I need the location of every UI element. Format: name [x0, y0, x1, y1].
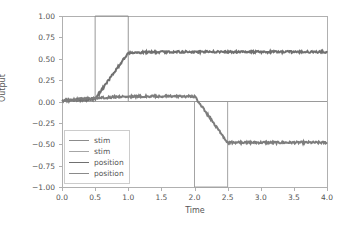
plot-axes: 0.00.51.01.52.02.53.03.54.0 1.000.750.50…	[62, 16, 328, 188]
y-tick-label: 0.75	[38, 33, 55, 42]
legend-label: position	[94, 169, 124, 178]
legend-box[interactable]: stimstimpositionposition	[64, 130, 130, 184]
x-tick-mark	[228, 188, 229, 191]
legend-item[interactable]: stim	[69, 146, 124, 157]
figure-canvas: Output Time 0.00.51.01.52.02.53.03.54.0 …	[0, 0, 347, 226]
y-tick-label: 0.50	[38, 54, 55, 63]
legend-label: stim	[94, 136, 110, 145]
legend-line-swatch	[69, 151, 89, 152]
legend-line-swatch	[69, 173, 89, 174]
legend-item[interactable]: position	[69, 157, 124, 168]
legend-label: position	[94, 158, 124, 167]
legend-item[interactable]: position	[69, 168, 124, 179]
x-tick-label: 2.5	[222, 193, 234, 202]
x-tick-mark	[161, 188, 162, 191]
series-line-position-2	[62, 51, 327, 102]
x-tick-mark	[195, 188, 196, 191]
x-tick-label: 0.0	[56, 193, 68, 202]
y-tick-label: 0.25	[38, 76, 55, 85]
x-tick-mark	[128, 188, 129, 191]
x-tick-label: 1.0	[122, 193, 134, 202]
y-tick-label: 1.00	[38, 12, 55, 21]
x-tick-mark	[294, 188, 295, 191]
x-tick-mark	[95, 188, 96, 191]
x-tick-mark	[327, 188, 328, 191]
x-tick-label: 3.0	[255, 193, 267, 202]
x-tick-label: 4.0	[321, 193, 333, 202]
x-tick-label: 0.5	[89, 193, 101, 202]
y-axis-label: Output	[0, 74, 7, 102]
y-tick-label: 0.00	[38, 97, 55, 106]
legend-label: stim	[94, 147, 110, 156]
x-tick-label: 1.5	[155, 193, 167, 202]
x-tick-label: 2.0	[189, 193, 201, 202]
y-tick-label: −0.75	[32, 161, 55, 170]
y-tick-label: −0.50	[32, 140, 55, 149]
y-tick-label: −1.00	[32, 183, 55, 192]
legend-item[interactable]: stim	[69, 135, 124, 146]
x-axis-label: Time	[62, 206, 328, 215]
legend-line-swatch	[69, 162, 89, 163]
x-tick-mark	[62, 188, 63, 191]
y-tick-label: −0.25	[32, 118, 55, 127]
x-tick-mark	[261, 188, 262, 191]
x-tick-label: 3.5	[288, 193, 300, 202]
legend-line-swatch	[69, 140, 89, 141]
